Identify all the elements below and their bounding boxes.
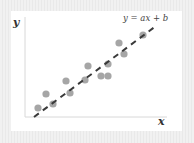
data-point xyxy=(62,77,69,84)
regression-line xyxy=(34,26,156,117)
data-point xyxy=(42,90,49,97)
data-point xyxy=(84,62,91,69)
equation-label: y = ax + b xyxy=(123,13,168,23)
x-axis-label: x xyxy=(158,115,165,128)
data-point xyxy=(120,50,127,57)
data-point xyxy=(34,104,41,111)
y-axis-label: y xyxy=(13,16,19,29)
data-point xyxy=(97,72,104,79)
data-points xyxy=(34,31,146,111)
data-point xyxy=(104,72,111,79)
data-point xyxy=(115,39,122,46)
